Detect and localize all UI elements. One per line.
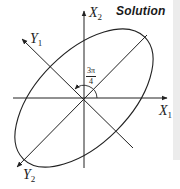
x2-label: X2: [89, 6, 102, 22]
angle-denominator: 4: [86, 77, 96, 86]
y1-axis: [22, 39, 133, 148]
y2-label: Y2: [23, 168, 35, 184]
ellipse-diagram: [0, 0, 180, 189]
solution-title: Solution: [116, 4, 166, 18]
angle-numerator: 3π: [86, 67, 96, 77]
ellipse: [0, 5, 177, 189]
x1-label: X1: [159, 104, 172, 120]
angle-arc: [75, 85, 97, 98]
angle-label: 3π 4: [86, 67, 96, 86]
y2-axis: [17, 35, 147, 167]
y1-label: Y1: [30, 32, 42, 48]
